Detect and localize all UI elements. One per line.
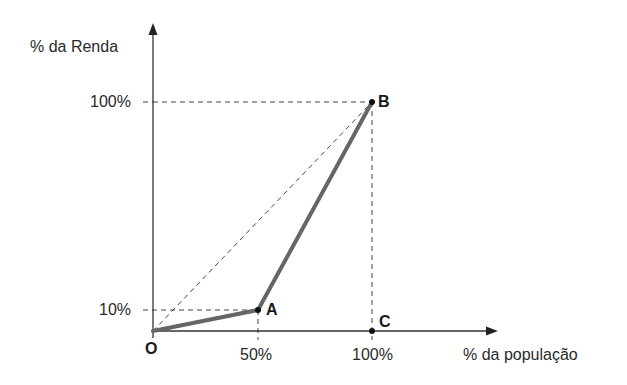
x-tick-100: 100% bbox=[352, 346, 393, 364]
x-axis-arrow-icon bbox=[486, 327, 498, 336]
y-axis-label: % da Renda bbox=[30, 38, 118, 56]
x-axis-label: % da população bbox=[463, 346, 578, 364]
point-A bbox=[255, 307, 261, 313]
equality-line bbox=[153, 102, 372, 331]
y-tick-10: 10% bbox=[99, 301, 131, 319]
point-B bbox=[369, 99, 375, 105]
y-axis-arrow-icon bbox=[149, 23, 158, 35]
point-label-B: B bbox=[378, 93, 390, 111]
point-C bbox=[369, 328, 375, 334]
point-label-O: O bbox=[145, 340, 157, 358]
point-label-C: C bbox=[379, 313, 391, 331]
point-label-A: A bbox=[266, 301, 278, 319]
y-tick-100: 100% bbox=[90, 93, 131, 111]
x-tick-50: 50% bbox=[240, 346, 272, 364]
lorenz-chart bbox=[0, 0, 627, 385]
